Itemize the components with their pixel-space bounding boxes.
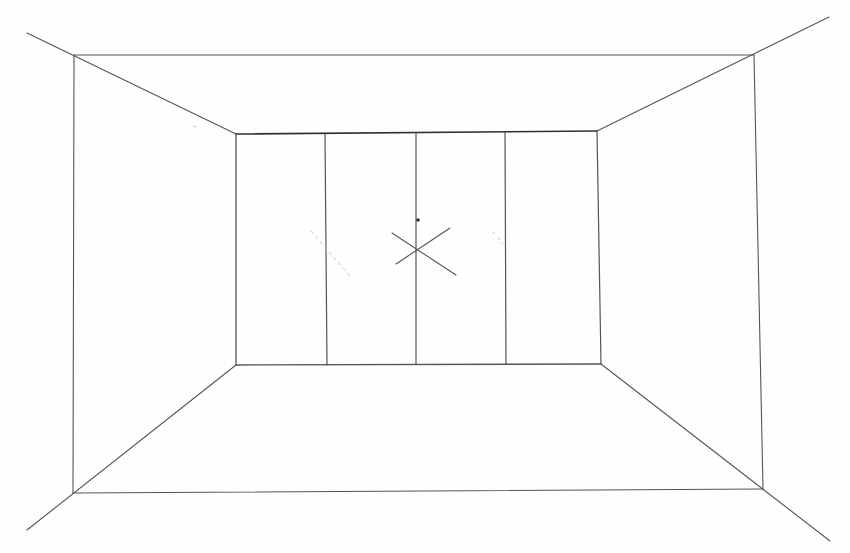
orthogonal-lines [27,17,830,541]
vanishing-point-cross-line [396,228,450,264]
outer-frame-bottom-edge [73,489,763,493]
vanishing-point-cross-line [392,233,456,275]
outer-frame [73,55,763,493]
vanishing-point-marker [392,218,456,275]
outer-frame-right-edge [754,55,763,489]
construction-mark [193,126,198,128]
reference-dot [416,218,420,222]
outer-frame-left-edge [73,55,74,493]
orthogonal-line [601,364,830,541]
orthogonal-line [27,365,236,530]
back-wall-bottom-edge [236,364,601,365]
perspective-sketch [0,0,850,553]
construction-mark [493,232,503,244]
panel-divider-line [505,132,506,364]
construction-marks [193,126,503,276]
orthogonal-line [27,33,236,134]
orthogonal-line [597,17,829,131]
back-wall [236,131,601,365]
construction-mark [311,231,350,276]
back-wall-right-edge [597,131,601,364]
drawing-canvas: One-point perspective room sketch [0,0,850,553]
